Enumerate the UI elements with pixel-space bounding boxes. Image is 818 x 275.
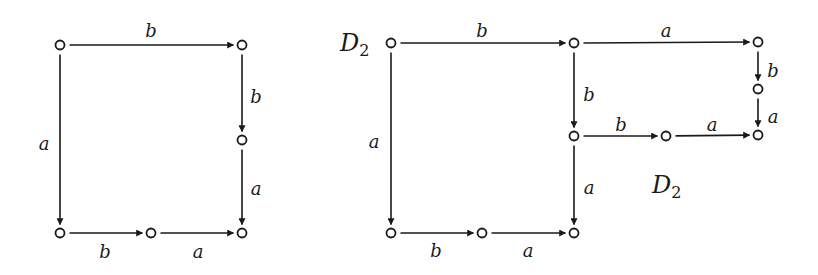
edge-label: a [768, 106, 779, 127]
edge-label: a [193, 241, 204, 262]
edge-label: a [251, 178, 262, 199]
title-main: D [651, 171, 671, 199]
edges-layer [60, 42, 758, 233]
diagram-canvas: bbaababababbaaabaD2D2 [0, 0, 818, 275]
node-circle [387, 39, 396, 48]
node-circle [570, 132, 579, 141]
edge-label: b [767, 60, 779, 81]
node-circle [387, 229, 396, 238]
node-circle [754, 131, 763, 140]
edge-label: a [584, 177, 595, 198]
node-circle [570, 39, 579, 48]
node-circle [147, 229, 156, 238]
title-subscript: 2 [671, 183, 681, 202]
edge-label: b [583, 84, 595, 105]
node-circle [478, 229, 487, 238]
edge-label: b [250, 86, 262, 107]
edge-arrow [675, 135, 749, 136]
node-circle [56, 229, 65, 238]
node-circle [238, 136, 247, 145]
edge-label: a [707, 114, 718, 135]
edge-arrow [583, 42, 749, 43]
edge-label: b [476, 20, 488, 41]
edge-label: a [661, 20, 672, 41]
edge-label: a [523, 240, 534, 261]
edge-label: b [430, 240, 442, 261]
node-circle [662, 132, 671, 141]
edge-label: b [99, 241, 111, 262]
node-circle [238, 41, 247, 50]
edge-label: b [145, 20, 157, 41]
node-circle [570, 229, 579, 238]
edge-label: a [369, 131, 380, 152]
title-main: D [339, 29, 359, 57]
node-circle [754, 85, 763, 94]
edge-label: a [39, 133, 50, 154]
nodes-layer [56, 38, 763, 238]
diagram-title-label: D2 [339, 29, 369, 60]
node-circle [56, 41, 65, 50]
diagram-title-label: D2 [651, 171, 681, 202]
node-circle [754, 38, 763, 47]
title-subscript: 2 [359, 41, 369, 60]
edge-label: b [615, 114, 627, 135]
node-circle [238, 229, 247, 238]
